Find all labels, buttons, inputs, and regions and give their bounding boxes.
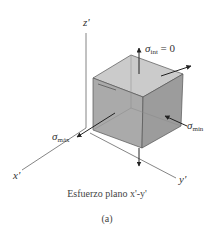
x-axis-label: x' (13, 170, 20, 181)
figure-sublabel: (a) (0, 213, 214, 224)
z-axis-label: z' (83, 17, 90, 28)
y-axis-label: y' (179, 174, 186, 185)
sigma-max-label: σmáx (52, 131, 70, 144)
sigma-min-label: σmín (187, 120, 203, 133)
figure-caption: Esfuerzo plano x'-y' (0, 188, 214, 199)
sigma-int-label: σint = 0 (145, 43, 175, 56)
stress-cube-diagram (0, 0, 214, 238)
